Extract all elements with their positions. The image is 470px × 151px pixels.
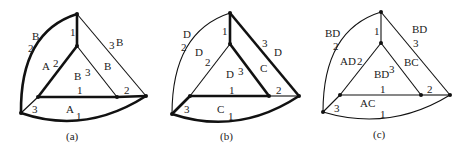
label-right-stub-num: 2 [276, 84, 282, 96]
edge-top-outerright [77, 14, 146, 96]
node-inner-left [188, 94, 192, 98]
label-center-letter: BD [374, 68, 389, 80]
label-left-arc-letter: BD [325, 27, 340, 39]
label-center-letter: D [226, 68, 234, 80]
label-apex-right-letter: C [260, 62, 267, 74]
node-top [228, 11, 232, 15]
label-apex-right-letter: B [104, 60, 111, 72]
label-bottom-arc-num: 1 [380, 108, 386, 120]
label-center-num: 3 [85, 66, 91, 78]
node-inner-left [36, 95, 40, 99]
node-outer-left [170, 112, 174, 116]
node-inner-left [338, 93, 342, 97]
node-outer-right [144, 94, 148, 98]
edge-bottom-arc [172, 96, 299, 122]
label-apex-left-num: 2 [357, 55, 363, 67]
node-inner-right [267, 94, 271, 98]
label-left-stub-num: 3 [32, 103, 38, 115]
label-left-arc-letter: B [32, 30, 39, 42]
label-bottom-arc-num: 1 [228, 110, 234, 122]
label-center-num: 3 [389, 63, 395, 75]
node-top [75, 12, 79, 16]
edge-top-outerright [230, 13, 299, 96]
panel-c: BD 2 1 3 BD AD 2 BD 3 BC 1 2 3 AC 1 (c) [321, 10, 452, 141]
node-outer-left [321, 110, 325, 114]
label-right-stub-num: 2 [427, 83, 433, 95]
label-top-inner-num: 1 [374, 25, 380, 37]
label-apex-left-num: 2 [53, 57, 59, 69]
label-top-inner-num: 1 [222, 25, 228, 37]
edge-innerright-outerright [117, 96, 146, 97]
node-apex [379, 41, 383, 45]
panel-b: D 2 1 3 D D 2 D 3 C 1 2 3 C 1 (b) [170, 11, 301, 143]
node-inner-right [419, 93, 423, 97]
label-inner-bottom-num: 1 [380, 83, 386, 95]
label-apex-left-letter: AD [340, 55, 356, 67]
node-apex [228, 42, 232, 46]
node-outer-right [448, 93, 452, 97]
label-top-right-num: 3 [413, 37, 419, 49]
label-bottom-arc-num: 1 [76, 110, 82, 122]
label-top-right-letter: BD [412, 23, 427, 35]
label-left-stub-num: 3 [334, 102, 340, 114]
label-left-arc-num: 2 [181, 41, 187, 53]
label-inner-bottom-num: 1 [77, 84, 83, 96]
edge-bottom-arc [21, 96, 146, 121]
node-apex [75, 44, 79, 48]
label-top-right-letter: D [274, 46, 282, 58]
edge-bottom-arc [323, 95, 450, 119]
caption-b: (b) [220, 130, 233, 143]
panel-a: B 2 1 3 B A 2 B 3 B 1 2 3 A 1 (a) [19, 12, 148, 143]
label-left-arc-letter: D [183, 28, 191, 40]
label-top-right-letter: B [116, 36, 123, 48]
label-left-arc-num: 2 [28, 42, 34, 54]
label-apex-left-letter: D [195, 46, 203, 58]
label-center-letter: B [74, 70, 81, 82]
label-apex-left-num: 2 [205, 56, 211, 68]
node-inner-right [115, 95, 119, 99]
label-apex-left-letter: A [42, 60, 50, 72]
label-top-inner-num: 1 [70, 26, 76, 38]
figure-canvas: B 2 1 3 B A 2 B 3 B 1 2 3 A 1 (a) D 2 1 [0, 0, 470, 151]
label-left-arc-num: 2 [333, 40, 339, 52]
label-center-num: 3 [238, 65, 244, 77]
caption-a: (a) [66, 130, 79, 143]
label-bottom-arc-letter: A [66, 103, 74, 115]
node-top [379, 10, 383, 14]
label-apex-right-letter: BC [404, 56, 419, 68]
label-left-stub-num: 3 [184, 103, 190, 115]
label-top-right-num: 3 [262, 37, 268, 49]
label-bottom-arc-letter: C [217, 103, 224, 115]
label-inner-bottom-num: 1 [229, 84, 235, 96]
label-bottom-arc-letter: AC [360, 97, 375, 109]
caption-c: (c) [373, 128, 386, 141]
node-outer-left [19, 111, 23, 115]
node-outer-right [297, 94, 301, 98]
label-top-right-num: 3 [109, 39, 115, 51]
label-right-stub-num: 2 [124, 84, 130, 96]
